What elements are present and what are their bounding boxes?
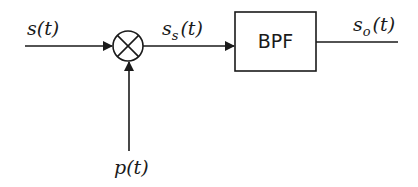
bpf-label: BPF: [258, 30, 293, 52]
mixer: [113, 31, 143, 61]
carrier-signal: p(t): [114, 62, 149, 178]
input-label: s(t): [27, 17, 59, 39]
bpf-block: BPF: [235, 12, 316, 71]
intermediate-label: ss(t): [162, 17, 203, 43]
output-label: so(t): [353, 13, 395, 39]
input-signal: s(t): [25, 17, 112, 46]
output-signal: so(t): [316, 13, 398, 42]
block-diagram: s(t) p(t) ss(t) BPF so(t): [0, 0, 418, 187]
carrier-label: p(t): [114, 156, 149, 178]
intermediate-signal: ss(t): [143, 17, 234, 46]
